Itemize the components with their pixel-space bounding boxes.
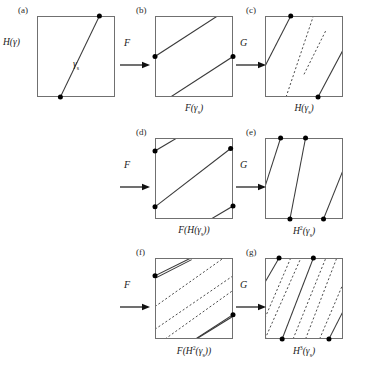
arrow-glyph	[120, 182, 150, 192]
endpoint-dot	[277, 256, 282, 261]
map-arrow-label: G	[240, 38, 247, 48]
panel-caption: H2(γs)	[265, 226, 343, 239]
solid-curve	[211, 206, 233, 219]
panel-border	[38, 17, 115, 97]
dotted-curve	[265, 258, 291, 318]
arrow-glyph	[120, 302, 150, 312]
panel-tag: (a)	[18, 6, 28, 15]
panel-d	[155, 138, 233, 219]
panel-border	[156, 139, 233, 219]
panel-canvas	[155, 138, 233, 219]
solid-curve	[155, 138, 177, 151]
endpoint-dot	[288, 14, 293, 19]
panel-tag: (g)	[246, 248, 257, 257]
map-arrow	[120, 178, 150, 188]
panel-canvas	[37, 16, 115, 97]
dotted-curve	[286, 16, 313, 97]
map-arrow-label: G	[240, 160, 247, 170]
panel-border	[266, 17, 343, 97]
map-arrow	[120, 56, 150, 66]
endpoint-dot	[321, 217, 326, 222]
endpoint-dot	[278, 136, 283, 141]
map-arrow-label: F	[124, 280, 130, 290]
endpoint-dot	[280, 337, 285, 342]
dotted-curve	[155, 276, 233, 329]
panel-f	[155, 258, 233, 339]
solid-curve	[318, 50, 343, 97]
dotted-curve	[165, 290, 233, 339]
arrow-glyph	[236, 60, 266, 70]
endpoint-dot	[153, 204, 158, 209]
panel-g	[265, 258, 343, 339]
panel-caption: H(γs)	[265, 104, 343, 116]
solid-curve	[171, 57, 233, 98]
panel-tag: (c)	[246, 6, 256, 15]
endpoint-dot	[58, 95, 63, 100]
panel-tag: (b)	[136, 6, 147, 15]
solid-curve	[155, 149, 231, 207]
panel-tag: (f)	[136, 248, 145, 257]
solid-curve	[265, 258, 279, 282]
map-arrow	[236, 178, 266, 188]
map-arrow	[120, 298, 150, 308]
solid-curve	[60, 16, 99, 97]
endpoint-dot	[316, 95, 321, 100]
solid-curve	[324, 170, 344, 219]
panel-canvas	[155, 16, 233, 97]
curve-group	[265, 138, 343, 219]
figure-root: (a)H(γ)γs(b)F(γs)(c)H(γs)(d)F(H(γs))(e)H…	[0, 0, 365, 369]
map-arrow-label: F	[124, 38, 130, 48]
panel-caption: F(H(γs))	[155, 226, 233, 238]
panel-border	[266, 259, 343, 339]
dotted-curve	[304, 31, 326, 75]
panel-a	[37, 16, 115, 97]
curve-group	[155, 258, 233, 339]
solid-curve	[155, 260, 192, 279]
panel-side-label: H(γ)	[3, 38, 20, 48]
arrow-glyph	[236, 182, 266, 192]
dotted-curve	[306, 258, 337, 339]
arrow-glyph	[236, 302, 266, 312]
endpoint-dot	[326, 337, 331, 342]
dotted-curve	[265, 258, 301, 339]
solid-curve	[155, 16, 217, 57]
panel-caption: F(γs)	[155, 104, 233, 116]
solid-curve	[265, 138, 281, 187]
panel-canvas	[265, 16, 343, 97]
endpoint-dot	[303, 136, 308, 141]
solid-curve	[196, 316, 233, 339]
curve-group	[265, 258, 343, 339]
map-arrow-label: G	[240, 280, 247, 290]
curve-group	[155, 16, 233, 97]
endpoint-dot	[153, 54, 158, 59]
arrow-glyph	[120, 60, 150, 70]
curve-group	[155, 138, 233, 219]
solid-curve	[329, 311, 343, 339]
solid-curve	[290, 138, 306, 219]
endpoint-dot	[228, 146, 233, 151]
curve-group	[265, 16, 343, 97]
dotted-curve	[320, 284, 343, 339]
endpoint-dot	[153, 273, 158, 278]
panel-caption: F(H2(γs))	[155, 346, 233, 359]
endpoint-dot	[97, 14, 102, 19]
curve-label: γs	[73, 60, 79, 72]
curve-group	[60, 16, 99, 97]
panel-caption: H3(γs)	[265, 346, 343, 359]
solid-curve	[155, 258, 191, 276]
panel-tag: (e)	[246, 128, 256, 137]
panel-b	[155, 16, 233, 97]
map-arrow-label: F	[124, 160, 130, 170]
dotted-curve	[155, 258, 224, 307]
panel-tag: (d)	[136, 128, 147, 137]
endpoint-dot	[287, 217, 292, 222]
panel-canvas	[155, 258, 233, 339]
endpoint-dot	[153, 148, 158, 153]
endpoint-dot	[231, 204, 236, 209]
panel-border	[156, 17, 233, 97]
panel-canvas	[265, 138, 343, 219]
endpoint-dot	[311, 256, 316, 261]
solid-curve	[265, 16, 291, 66]
endpoint-dot	[231, 312, 236, 317]
panel-c	[265, 16, 343, 97]
